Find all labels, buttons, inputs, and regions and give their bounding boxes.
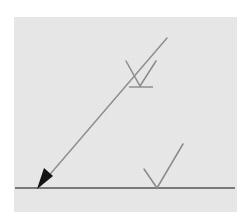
- figure-root: [0, 0, 249, 223]
- reflection-diagram-svg: [0, 0, 249, 223]
- diagram-panel: [14, 17, 237, 212]
